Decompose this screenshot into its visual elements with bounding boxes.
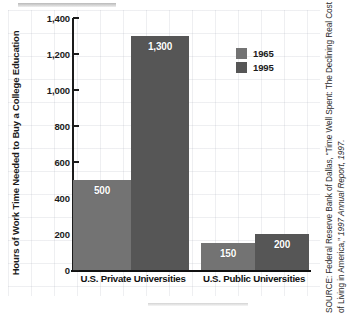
bar-value-label: 500 [73,185,131,196]
source-note-text: SOURCE: Federal Reserve Bank of Dallas, … [324,1,347,315]
bar-value-label: 150 [201,248,255,259]
bar-chart-figure: Hours of Work Time Needed to Buy a Colle… [8,10,320,296]
y-axis-title: Hours of Work Time Needed to Buy a Colle… [8,10,22,296]
y-axis-tick-label: 200 [54,229,73,240]
bar[interactable]: 200 [255,234,309,270]
chart-legend: 19651995 [236,48,274,73]
y-axis-tick-label: 1,000 [47,85,73,96]
y-axis-tick-label: 1,400 [47,13,73,24]
bar-group: 5001,300 [73,18,193,270]
legend-color-swatch [236,48,247,59]
y-axis-tick-label: 600 [54,157,73,168]
bottom-divider-rule [148,303,248,306]
x-axis-category-label: U.S. Private Universities [71,273,195,284]
bar-series-container: 5001,300U.S. Private Universities150200U… [73,18,310,270]
legend-item[interactable]: 1965 [236,48,274,59]
legend-color-swatch [236,62,247,73]
bar[interactable]: 1,300 [131,36,189,270]
source-note-publication: 1997 Annual Report [336,164,346,236]
source-note: SOURCE: Federal Reserve Bank of Dallas, … [324,0,354,315]
y-axis-tick-label: 400 [54,193,73,204]
y-axis-tick-label: 800 [54,121,73,132]
bar[interactable]: 500 [73,180,131,270]
legend-item-label: 1965 [253,48,274,59]
top-divider-rule [18,3,116,7]
bar[interactable]: 150 [201,243,255,270]
legend-item[interactable]: 1995 [236,62,274,73]
source-note-prefix: SOURCE: Federal Reserve Bank of Dallas, … [324,2,346,313]
y-axis-tick-label: 1,200 [47,49,73,60]
source-note-suffix: , 1997. [336,140,346,165]
x-axis-category-label: U.S. Public Universities [195,273,313,284]
bar-value-label: 200 [255,239,309,250]
plot-area: 02004006008001,0001,2001,400 5001,300U.S… [72,18,310,270]
legend-item-label: 1995 [253,62,274,73]
bar-value-label: 1,300 [131,41,189,52]
